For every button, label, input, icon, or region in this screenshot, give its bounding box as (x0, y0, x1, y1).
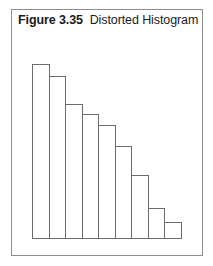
histogram-bar (82, 115, 99, 239)
figure-panel: Figure 3.35 Distorted Histogram (11, 9, 203, 256)
histogram-chart (12, 10, 204, 257)
histogram-bar (99, 125, 116, 238)
histogram-bars (33, 65, 182, 239)
histogram-bar (132, 176, 149, 239)
histogram-bar (49, 77, 66, 239)
histogram-bar (33, 65, 50, 239)
histogram-bar (165, 223, 182, 239)
histogram-bar (148, 209, 165, 239)
histogram-bar (66, 105, 83, 239)
histogram-svg (12, 10, 204, 257)
histogram-bar (115, 146, 132, 238)
